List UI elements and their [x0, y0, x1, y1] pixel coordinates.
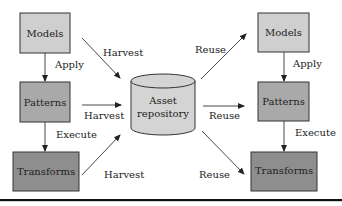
repository-label-line2: repository — [137, 108, 189, 119]
reuse-bottom-arrow — [202, 131, 244, 174]
reuse-bottom-label: Reuse — [199, 169, 230, 180]
reuse-top-label: Reuse — [195, 44, 226, 55]
repository-label-line1: Asset — [148, 95, 176, 106]
right-transforms-label: Transforms — [255, 165, 313, 176]
right-apply-label: Apply — [292, 58, 322, 69]
reuse-mid-label: Reuse — [209, 110, 240, 121]
left-patterns-box: Patterns — [20, 82, 70, 122]
left-patterns-label: Patterns — [24, 97, 67, 108]
right-patterns-box: Patterns — [258, 82, 309, 121]
asset-repository-cylinder: Asset repository — [131, 74, 195, 135]
bottom-rule — [0, 199, 342, 201]
right-patterns-label: Patterns — [262, 96, 305, 107]
right-models-box: Models — [258, 13, 309, 52]
reuse-top-arrow — [201, 34, 246, 79]
right-execute-label: Execute — [295, 127, 336, 138]
left-execute-label: Execute — [56, 129, 97, 140]
left-apply-label: Apply — [54, 59, 84, 70]
asset-reuse-diagram: Models Patterns Transforms Apply Execute… — [0, 0, 342, 206]
harvest-top-label: Harvest — [103, 47, 143, 58]
left-models-label: Models — [27, 28, 64, 39]
left-transforms-label: Transforms — [17, 166, 75, 177]
right-transforms-box: Transforms — [251, 152, 317, 191]
right-models-label: Models — [265, 27, 302, 38]
harvest-bottom-label: Harvest — [104, 169, 144, 180]
harvest-top-arrow — [82, 38, 120, 78]
left-transforms-box: Transforms — [13, 152, 79, 191]
left-models-box: Models — [20, 13, 70, 53]
harvest-mid-label: Harvest — [84, 110, 124, 121]
